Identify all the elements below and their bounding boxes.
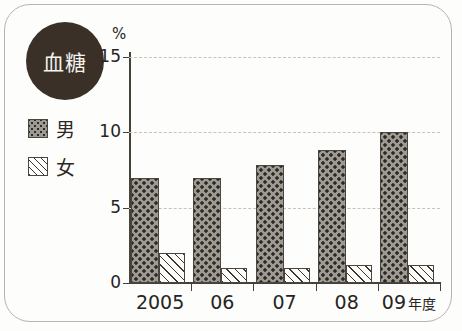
y-axis-label-15: 15: [95, 46, 121, 66]
y-axis-label-0: 0: [95, 272, 121, 292]
bar-group-2005: [131, 57, 185, 283]
y-tick-0: [123, 283, 129, 284]
bar-group-09: [380, 57, 434, 283]
x-axis-label-09: 09年度: [378, 291, 440, 313]
plot-area: [129, 57, 440, 283]
bar-group-07: [256, 57, 310, 283]
bar-female-2005: [159, 253, 185, 283]
x-tick-07: [253, 283, 254, 291]
bar-female-09: [408, 265, 434, 283]
x-tick-09: [378, 283, 379, 291]
title-badge-label: 血糖: [43, 46, 87, 76]
bar-male-09: [380, 132, 408, 283]
x-tick-06: [191, 283, 192, 291]
legend-item-female: 女: [28, 151, 114, 181]
y-axis-unit: %: [112, 25, 126, 43]
y-tick-10: [123, 132, 129, 133]
x-axis-label-08: 08: [316, 291, 378, 313]
chart-card: 血糖 男 女 % 051015200506070809年度: [0, 0, 462, 331]
title-badge: 血糖: [26, 22, 104, 100]
legend-swatch-female-icon: [28, 157, 48, 176]
x-axis-label-06: 06: [191, 291, 253, 313]
x-tick-end: [440, 283, 441, 291]
legend-swatch-male-icon: [28, 119, 48, 138]
x-axis-label-2005: 2005: [129, 291, 191, 313]
bar-female-06: [221, 268, 247, 283]
y-axis-label-5: 5: [95, 197, 121, 217]
bar-female-07: [284, 268, 310, 283]
bar-male-07: [256, 165, 284, 283]
bar-male-06: [193, 178, 221, 283]
y-axis-label-10: 10: [95, 121, 121, 141]
bar-female-08: [346, 265, 372, 283]
bar-male-08: [318, 150, 346, 283]
x-axis-label-07: 07: [253, 291, 315, 313]
y-tick-15: [123, 57, 129, 58]
bar-group-06: [193, 57, 247, 283]
bar-group-08: [318, 57, 372, 283]
bar-male-2005: [131, 178, 159, 283]
x-tick-08: [316, 283, 317, 291]
legend-label-female: 女: [56, 153, 75, 180]
legend-label-male: 男: [56, 115, 75, 142]
y-tick-5: [123, 208, 129, 209]
